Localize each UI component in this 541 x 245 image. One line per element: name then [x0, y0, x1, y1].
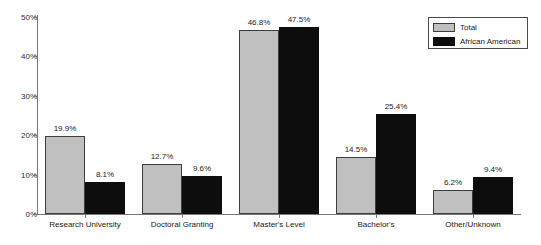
- y-axis-tick-mark: [33, 17, 37, 18]
- legend-label-total: Total: [460, 23, 477, 32]
- x-axis-category-label: Master's Level: [253, 220, 304, 229]
- legend-item-total: Total: [433, 21, 523, 33]
- y-axis-line: [37, 15, 38, 215]
- bar-value-label: 19.9%: [54, 124, 77, 133]
- bar-value-label: 9.6%: [193, 164, 211, 173]
- x-axis-category-label: Other/Unknown: [445, 220, 501, 229]
- chart-legend: Total African American: [428, 17, 528, 49]
- y-axis-tick-mark: [33, 214, 37, 215]
- bar-value-label: 25.4%: [385, 102, 408, 111]
- x-axis-tick-mark: [473, 214, 474, 218]
- bar: [142, 164, 182, 214]
- y-axis-tick-mark: [33, 135, 37, 136]
- bar: [376, 114, 416, 214]
- bar-chart-figure: 0%10%20%30%40%50% 19.9%8.1%12.7%9.6%46.8…: [0, 0, 541, 245]
- y-axis-tick-mark: [33, 96, 37, 97]
- bar-value-label: 12.7%: [151, 152, 174, 161]
- bar: [279, 27, 319, 214]
- bar-value-label: 8.1%: [96, 170, 114, 179]
- x-axis-category-label: Research University: [49, 220, 121, 229]
- bar: [473, 177, 513, 214]
- bar-value-label: 9.4%: [484, 165, 502, 174]
- legend-item-african-american: African American: [433, 35, 523, 47]
- bar-value-label: 47.5%: [288, 15, 311, 24]
- plot-area: 0%10%20%30%40%50% 19.9%8.1%12.7%9.6%46.8…: [0, 0, 541, 245]
- x-axis-category-label: Bachelor's: [357, 220, 394, 229]
- bar: [182, 176, 222, 214]
- legend-swatch-african-american-icon: [433, 37, 455, 46]
- x-axis-tick-mark: [279, 214, 280, 218]
- bar: [336, 157, 376, 214]
- bar-value-label: 6.2%: [444, 178, 462, 187]
- x-axis-category-label: Doctoral Granting: [151, 220, 214, 229]
- legend-swatch-total-icon: [433, 23, 455, 32]
- bar-value-label: 46.8%: [248, 18, 271, 27]
- bar: [45, 136, 85, 214]
- y-axis-tick-mark: [33, 56, 37, 57]
- x-axis-tick-mark: [182, 214, 183, 218]
- bar: [85, 182, 125, 214]
- x-axis-tick-mark: [376, 214, 377, 218]
- x-axis-tick-mark: [85, 214, 86, 218]
- bar: [433, 190, 473, 214]
- bar: [239, 30, 279, 214]
- legend-label-african-american: African American: [460, 37, 520, 46]
- y-axis-tick-mark: [33, 175, 37, 176]
- bar-value-label: 14.5%: [345, 145, 368, 154]
